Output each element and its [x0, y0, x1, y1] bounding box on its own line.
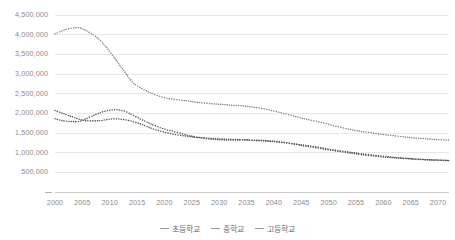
data-dot [443, 139, 445, 141]
data-dot [112, 55, 114, 57]
data-dot [106, 47, 108, 49]
data-dot [75, 27, 77, 29]
data-dot [169, 98, 171, 100]
legend-item[interactable]: 초등학교 [160, 223, 200, 234]
data-dot [86, 30, 88, 32]
data-dot [338, 126, 340, 128]
data-dot [356, 152, 358, 154]
data-dot [223, 138, 225, 140]
data-dot [407, 136, 409, 138]
data-dot [385, 134, 387, 136]
data-dot [95, 36, 97, 38]
data-dot [127, 75, 129, 77]
data-dot [118, 118, 120, 120]
legend-line-icon [211, 228, 220, 229]
data-dot [420, 138, 422, 140]
data-dot [133, 115, 135, 117]
data-dot [204, 102, 206, 104]
data-dot [289, 142, 291, 144]
data-dot [155, 129, 157, 131]
y-tick-label: 2,000,000 [0, 108, 48, 117]
data-dot [293, 115, 295, 117]
data-dot [130, 113, 132, 115]
legend-line-icon [160, 228, 169, 229]
data-dot [434, 139, 436, 141]
data-dot [63, 29, 65, 31]
data-dot [68, 121, 70, 123]
data-dot [427, 159, 429, 161]
data-dot [242, 139, 244, 141]
data-dot [167, 132, 169, 134]
data-dot [99, 120, 101, 122]
data-dot [320, 147, 322, 149]
data-dot [183, 100, 185, 102]
data-dot [213, 103, 215, 105]
data-dot [146, 126, 148, 128]
data-dot [415, 137, 417, 139]
data-dot [111, 109, 113, 111]
legend-item[interactable]: 고등학교 [255, 223, 295, 234]
data-dot [108, 50, 110, 52]
data-dot [445, 139, 447, 141]
data-dot [261, 140, 263, 142]
data-dot [137, 122, 139, 124]
data-dot [101, 120, 103, 122]
data-dot [306, 118, 308, 120]
data-dot [298, 144, 300, 146]
data-dot [92, 34, 94, 36]
data-dot [59, 31, 61, 33]
data-dot [368, 154, 370, 156]
data-dot [291, 115, 293, 117]
data-dot [431, 159, 433, 161]
data-dot [70, 28, 72, 30]
data-dot [59, 112, 61, 114]
data-dot [181, 100, 183, 102]
data-dot [119, 65, 121, 67]
data-dot [171, 98, 173, 100]
data-dot [186, 100, 188, 102]
data-dot [411, 158, 413, 160]
data-dot [295, 116, 297, 118]
data-dot [187, 136, 189, 138]
data-dot [226, 104, 228, 106]
y-tick-label: 1,000,000 [0, 148, 48, 157]
y-tick-label: 500,000 [0, 167, 48, 176]
data-dot [65, 29, 67, 31]
data-dot [119, 109, 121, 111]
data-dot [142, 124, 144, 126]
data-dot [204, 137, 206, 139]
data-dot [92, 120, 94, 122]
data-dot [402, 136, 404, 138]
data-dot [218, 103, 220, 105]
data-dot [291, 143, 293, 145]
data-dot [232, 139, 234, 141]
data-dot [160, 130, 162, 132]
data-dot [307, 145, 309, 147]
data-dot [440, 159, 442, 161]
data-dot [123, 70, 125, 72]
data-dot [330, 124, 332, 126]
data-dot [140, 123, 142, 125]
data-dot [148, 122, 150, 124]
data-dot [239, 139, 241, 141]
data-dot [148, 127, 150, 129]
data-dot [358, 153, 360, 155]
data-dot [413, 158, 415, 160]
data-dot [317, 146, 319, 148]
data-dot [197, 102, 199, 104]
data-dot [251, 139, 253, 141]
legend-item[interactable]: 중학교 [211, 223, 244, 234]
data-dot [333, 125, 335, 127]
data-dot [162, 128, 164, 130]
data-dot [206, 103, 208, 105]
data-dot [330, 149, 332, 151]
data-dot [354, 130, 356, 132]
data-dot [165, 132, 167, 134]
data-dot [312, 146, 314, 148]
data-dot [440, 139, 442, 141]
data-dot [351, 152, 353, 154]
data-dot [254, 139, 256, 141]
data-dot [300, 144, 302, 146]
data-dot [354, 152, 356, 154]
data-dot [222, 104, 224, 106]
